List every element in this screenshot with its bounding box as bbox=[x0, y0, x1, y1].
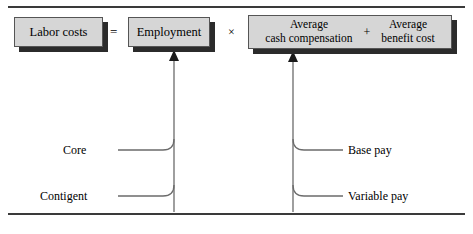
box-labor-costs: Labor costs bbox=[14, 17, 103, 47]
term-average-cash-compensation: Averagecash compensation bbox=[265, 18, 352, 45]
label-base-pay: Base pay bbox=[348, 143, 392, 158]
operator-times: × bbox=[228, 25, 235, 40]
box-employment: Employment bbox=[128, 17, 210, 47]
labor-costs-decomposition-figure: Labor costs Employment Averagecash compe… bbox=[0, 0, 473, 234]
label-contigent: Contigent bbox=[40, 189, 87, 204]
operator-equals: = bbox=[110, 24, 117, 40]
term-average-benefit-cost: Averagebenefit cost bbox=[381, 18, 434, 45]
compensation-terms: Averagecash compensation + Averagebenefi… bbox=[249, 18, 451, 45]
label-core: Core bbox=[63, 143, 86, 158]
box-compensation: Averagecash compensation + Averagebenefi… bbox=[248, 15, 452, 49]
operator-plus: + bbox=[364, 25, 371, 39]
label-variable-pay: Variable pay bbox=[348, 189, 408, 204]
